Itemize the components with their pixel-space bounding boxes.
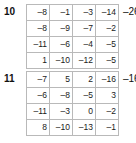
matrix-cell: –7 — [73, 21, 96, 37]
matrix-cell: –5 — [96, 37, 119, 53]
problem-number-label: 11 — [4, 71, 26, 86]
matrix-cell: 3 — [96, 88, 119, 104]
matrix-cell: –3 — [73, 5, 96, 21]
matrix-cell: 2 — [73, 72, 96, 88]
worksheet-problem-sheet: 10 –8 –1 –3 –14 –8 –9 –7 –2 –11 –6 — [0, 0, 136, 143]
matrix-cell: –8 — [50, 88, 73, 104]
matrix-cell: –14 — [96, 5, 119, 21]
matrix-cell: –8 — [27, 5, 50, 21]
matrix-cell: 0 — [73, 104, 96, 120]
matrix-cell: –6 — [27, 88, 50, 104]
matrix-row: –6 –8 –5 3 — [27, 88, 119, 104]
matrix-cell: –1 — [96, 120, 119, 136]
matrix-grid-10: –8 –1 –3 –14 –8 –9 –7 –2 –11 –6 –4 –5 — [26, 4, 119, 69]
matrix-cell: –2 — [96, 21, 119, 37]
matrix-cell: 8 — [27, 120, 50, 136]
matrix-row: –7 5 2 –16 — [27, 72, 119, 88]
matrix-cell: –10 — [50, 120, 73, 136]
matrix-cell: –5 — [73, 88, 96, 104]
matrix-cell: 1 — [27, 53, 50, 69]
problem-result-value: –26 — [119, 4, 136, 19]
matrix-cell: –5 — [96, 53, 119, 69]
matrix-cell: –4 — [73, 37, 96, 53]
matrix-cell: –11 — [27, 104, 50, 120]
matrix-row: –8 –1 –3 –14 — [27, 5, 119, 21]
problem-item-10: 10 –8 –1 –3 –14 –8 –9 –7 –2 –11 –6 — [4, 4, 136, 69]
matrix-grid-11: –7 5 2 –16 –6 –8 –5 3 –11 –3 0 –2 — [26, 71, 119, 136]
matrix-cell: –13 — [73, 120, 96, 136]
matrix-cell: –1 — [50, 5, 73, 21]
matrix-cell: –6 — [50, 37, 73, 53]
problem-item-11: 11 –7 5 2 –16 –6 –8 –5 3 –11 –3 — [4, 71, 136, 136]
matrix-cell: 5 — [50, 72, 73, 88]
matrix-cell: –10 — [50, 53, 73, 69]
matrix-cell: –8 — [27, 21, 50, 37]
matrix-row: 8 –10 –13 –1 — [27, 120, 119, 136]
matrix-cell: –3 — [50, 104, 73, 120]
problem-result-value: –16 — [119, 71, 136, 86]
matrix-cell: –2 — [96, 104, 119, 120]
matrix-row: –11 –3 0 –2 — [27, 104, 119, 120]
matrix-row: 1 –10 –12 –5 — [27, 53, 119, 69]
matrix-cell: –7 — [27, 72, 50, 88]
matrix-row: –11 –6 –4 –5 — [27, 37, 119, 53]
matrix-cell: –16 — [96, 72, 119, 88]
matrix-row: –8 –9 –7 –2 — [27, 21, 119, 37]
matrix-cell: –11 — [27, 37, 50, 53]
matrix-cell: –12 — [73, 53, 96, 69]
problem-number-label: 10 — [4, 4, 26, 19]
matrix-cell: –9 — [50, 21, 73, 37]
